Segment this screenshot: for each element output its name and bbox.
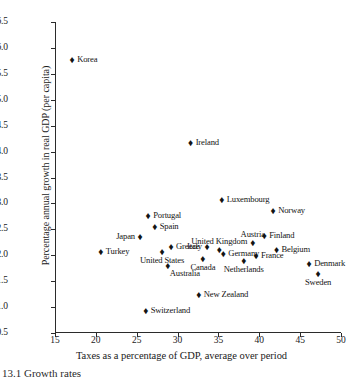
y-axis-tick-label: 6.5 bbox=[0, 17, 8, 27]
y-axis-tick-label: 6.0 bbox=[0, 43, 8, 53]
y-axis-tick-label: 5.5 bbox=[0, 69, 8, 79]
diamond-marker-icon bbox=[220, 251, 226, 257]
data-point-label: Portugal bbox=[153, 211, 181, 220]
x-axis-tick-mark bbox=[178, 333, 179, 337]
data-point-label: Belgium bbox=[281, 245, 310, 254]
x-axis-tick-label: 30 bbox=[158, 336, 198, 346]
y-axis-tick-label: 3.0 bbox=[0, 198, 8, 208]
data-point-label: Korea bbox=[77, 55, 97, 64]
x-axis-tick-label: 25 bbox=[117, 336, 157, 346]
x-axis-tick-mark bbox=[300, 333, 301, 337]
diamond-marker-icon bbox=[270, 208, 276, 214]
y-axis-tick-label: 5.0 bbox=[0, 95, 8, 105]
plot-area bbox=[55, 22, 341, 333]
data-point-label: Finland bbox=[269, 231, 294, 240]
data-point-label: Netherlands bbox=[224, 265, 264, 274]
y-axis-tick-label: 2.0 bbox=[0, 250, 8, 260]
data-point-label: Luxembourg bbox=[227, 195, 270, 204]
diamond-marker-icon bbox=[98, 249, 104, 255]
y-axis-tick-label: 1.0 bbox=[0, 302, 8, 312]
data-point-label: Japan bbox=[116, 232, 135, 241]
diamond-marker-icon bbox=[137, 234, 143, 240]
figure-caption: 13.1 Growth rates bbox=[2, 367, 81, 379]
diamond-marker-icon bbox=[253, 253, 259, 259]
data-point-label: New Zealand bbox=[204, 290, 248, 299]
data-point-label: United Kingdom bbox=[191, 237, 247, 246]
data-point-label: Norway bbox=[278, 206, 305, 215]
y-axis-tick-label: 2.5 bbox=[0, 224, 8, 234]
y-axis-tick-label: 0.5 bbox=[0, 328, 8, 338]
x-axis-tick-label: 20 bbox=[76, 336, 116, 346]
x-axis-tick-label: 50 bbox=[321, 336, 361, 346]
x-axis-tick-mark bbox=[96, 333, 97, 337]
y-axis-tick-label: 1.5 bbox=[0, 276, 8, 286]
data-point-label: Australia bbox=[170, 269, 200, 278]
x-axis-tick-label: 15 bbox=[35, 336, 75, 346]
diamond-marker-icon bbox=[250, 240, 256, 246]
x-axis-tick-mark bbox=[218, 333, 219, 337]
diamond-marker-icon bbox=[306, 261, 312, 267]
x-axis-tick-mark bbox=[55, 333, 56, 337]
data-point-label: Turkey bbox=[106, 247, 130, 256]
data-point-label: Ireland bbox=[196, 138, 219, 147]
data-point-label: United States bbox=[140, 256, 184, 265]
diamond-marker-icon bbox=[152, 224, 158, 230]
diamond-marker-icon bbox=[145, 213, 151, 219]
diamond-marker-icon bbox=[219, 197, 225, 203]
y-axis-tick-label: 3.5 bbox=[0, 173, 8, 183]
diamond-marker-icon bbox=[196, 292, 202, 298]
x-axis-tick-label: 45 bbox=[280, 336, 320, 346]
x-axis-tick-mark bbox=[137, 333, 138, 337]
data-point-label: France bbox=[261, 251, 283, 260]
x-axis-tick-label: 35 bbox=[198, 336, 238, 346]
x-axis-tick-mark bbox=[259, 333, 260, 337]
diamond-marker-icon bbox=[188, 140, 194, 146]
data-point-label: Denmark bbox=[314, 259, 345, 268]
y-axis-tick-label: 4.5 bbox=[0, 121, 8, 131]
diamond-marker-icon bbox=[168, 244, 174, 250]
x-axis-title: Taxes as a percentage of GDP, average ov… bbox=[0, 350, 363, 361]
y-axis-tick-label: 4.0 bbox=[0, 147, 8, 157]
x-axis-tick-label: 40 bbox=[239, 336, 279, 346]
scatter-chart-figure: 0.51.01.52.02.53.03.54.04.55.05.56.06.5 … bbox=[0, 0, 363, 379]
x-axis-tick-mark bbox=[341, 333, 342, 337]
diamond-marker-icon bbox=[69, 57, 75, 63]
data-point-label: Sweden bbox=[305, 278, 331, 287]
data-point-label: Switzerland bbox=[151, 306, 190, 315]
y-axis-title: Percentage annual growth in real GDP (pe… bbox=[40, 26, 51, 306]
data-point-label: Spain bbox=[160, 222, 179, 231]
diamond-marker-icon bbox=[143, 308, 149, 314]
